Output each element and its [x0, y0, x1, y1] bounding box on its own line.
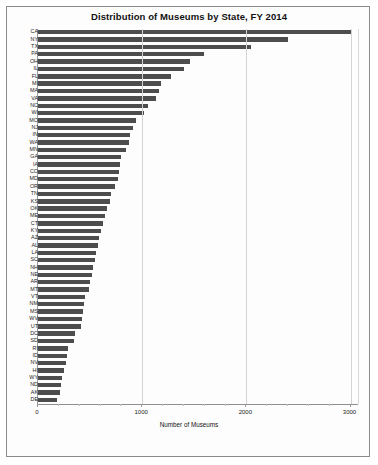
y-axis-tick-label: NE [10, 271, 38, 278]
bar [38, 148, 126, 152]
bar-row [38, 110, 358, 117]
bar-row [38, 301, 358, 308]
y-axis-tick-label: MN [10, 146, 38, 153]
bar [38, 206, 107, 210]
x-axis-minor-tick [162, 404, 163, 406]
gridline [351, 29, 352, 404]
bar [38, 104, 148, 108]
bar-row [38, 228, 358, 235]
y-axis-tick-label: UT [10, 323, 38, 330]
bar [38, 295, 85, 299]
y-axis-tick-label: SC [10, 256, 38, 263]
x-axis-minor-tick [308, 404, 309, 406]
y-axis-tick-label: WI [10, 109, 38, 116]
bar-row [38, 183, 358, 190]
bar-row [38, 125, 358, 132]
y-axis-tick-label: GA [10, 153, 38, 160]
x-axis-minor-tick [100, 404, 101, 406]
bar-row [38, 338, 358, 345]
bar [38, 192, 111, 196]
bar [38, 273, 92, 277]
bar-row [38, 29, 358, 36]
bar-rows [38, 29, 358, 404]
y-axis-tick-label: KY [10, 227, 38, 234]
bar-row [38, 323, 358, 330]
bar [38, 302, 84, 306]
y-axis-tick-label: SD [10, 337, 38, 344]
x-axis-major-tick [350, 404, 351, 407]
bar-row [38, 397, 358, 404]
y-axis-tick-label: TX [10, 43, 38, 50]
x-axis-minor-tick [58, 404, 59, 406]
y-axis-tick-label: AZ [10, 234, 38, 241]
bar-row [38, 73, 358, 80]
x-axis-tick-label: 2000 [239, 409, 252, 415]
bar-row [38, 360, 358, 367]
bar [38, 346, 68, 350]
y-axis-tick-label: LA [10, 249, 38, 256]
bar [38, 30, 352, 34]
y-axis-tick-label: AR [10, 278, 38, 285]
y-axis-tick-label: MD [10, 175, 38, 182]
bar-row [38, 242, 358, 249]
bar [38, 251, 96, 255]
y-axis-tick-label: NV [10, 359, 38, 366]
bar [38, 280, 90, 284]
y-axis-tick-label: FL [10, 73, 38, 80]
bar [38, 45, 251, 49]
x-axis-minor-tick [204, 404, 205, 406]
y-axis-tick-label: IA [10, 161, 38, 168]
bar-row [38, 205, 358, 212]
bar [38, 309, 83, 313]
bar-row [38, 95, 358, 102]
gridline [246, 29, 247, 404]
y-axis-tick-label: NM [10, 300, 38, 307]
bar-row [38, 66, 358, 73]
bar [38, 361, 66, 365]
plot-area [37, 29, 359, 404]
x-axis-major-tick [37, 404, 38, 407]
bar-row [38, 191, 358, 198]
bar-row [38, 44, 358, 51]
chart-container: Distribution of Museums by State, FY 201… [0, 0, 378, 465]
bar-row [38, 257, 358, 264]
bar-row [38, 198, 358, 205]
x-axis-minor-tick [120, 404, 121, 406]
bar [38, 59, 190, 63]
y-axis-tick-label: NC [10, 102, 38, 109]
x-axis-tick-label: 0 [35, 409, 38, 415]
x-axis-major-tick [245, 404, 246, 407]
x-axis-minor-tick [266, 404, 267, 406]
bar [38, 258, 95, 262]
bar-row [38, 139, 358, 146]
bar [38, 398, 57, 402]
bar [38, 89, 159, 93]
bar-row [38, 375, 358, 382]
bar-row [38, 88, 358, 95]
y-axis-tick-label: OK [10, 205, 38, 212]
y-axis-tick-label: WA [10, 139, 38, 146]
bar-row [38, 36, 358, 43]
bar-row [38, 235, 358, 242]
bar [38, 170, 119, 174]
bar [38, 74, 171, 78]
y-axis-tick-label: MT [10, 286, 38, 293]
x-axis-minor-tick [79, 404, 80, 406]
bar [38, 133, 130, 137]
y-axis-tick-label: CO [10, 168, 38, 175]
bar-row [38, 389, 358, 396]
bar-row [38, 213, 358, 220]
bar-row [38, 367, 358, 374]
bar-row [38, 147, 358, 154]
y-axis-tick-label: TN [10, 190, 38, 197]
bar [38, 229, 101, 233]
gridline [142, 29, 143, 404]
bar [38, 177, 118, 181]
y-axis-tick-label: VA [10, 95, 38, 102]
y-axis-tick-label: MI [10, 80, 38, 87]
bar [38, 317, 82, 321]
y-axis-tick-label: NY [10, 36, 38, 43]
y-axis-tick-label: HI [10, 367, 38, 374]
bar [38, 37, 288, 41]
bar [38, 184, 115, 188]
